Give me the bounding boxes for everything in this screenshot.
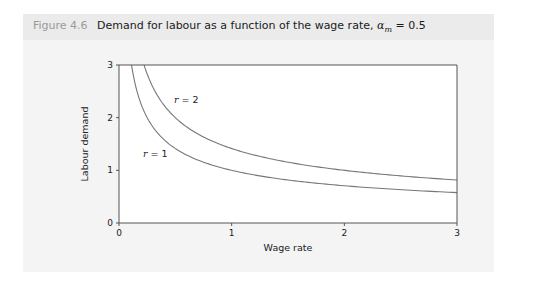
y-tick-label: 3 [107,60,113,70]
chart: 01230123 Wage rate Labour demand r = 2 r… [0,0,550,287]
x-tick-label: 0 [116,228,122,238]
curve-label-r1: r = 1 [143,148,168,159]
y-tick-label: 1 [107,165,113,175]
y-axis-title: Labour demand [79,107,90,182]
x-tick-label: 1 [229,228,235,238]
curve-label-r2: r = 2 [174,94,199,105]
x-tick-label: 3 [454,228,460,238]
x-axis-title: Wage rate [264,242,313,253]
y-tick-label: 0 [107,218,113,228]
x-tick-label: 2 [341,228,347,238]
y-tick-label: 2 [107,113,113,123]
